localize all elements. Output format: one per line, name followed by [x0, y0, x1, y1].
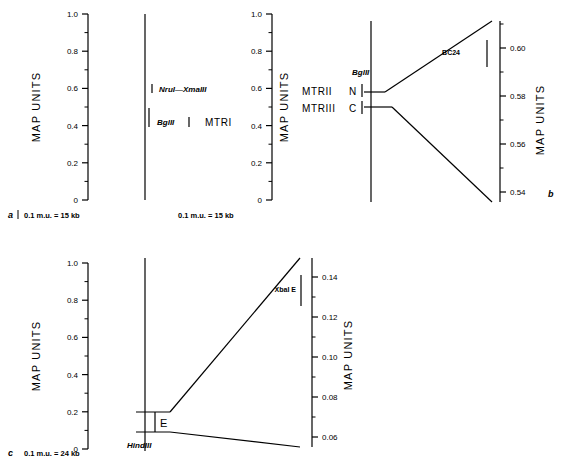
panel-b-terminus-n: N: [349, 86, 357, 97]
panel-a-left-tick-1: 1.0: [67, 10, 79, 19]
panel-c-tick-010: 0.10: [322, 353, 338, 362]
panel-a-right-tick-0: 0: [258, 196, 263, 205]
map-figure-svg: 1.0 0.8 0.6 0.4 0.2 0 MAP UNITS NruI—Xma…: [0, 0, 562, 470]
panel-a-right-tick-02: 0.2: [251, 159, 263, 168]
panel-b-expansion-line-upper: [385, 21, 492, 92]
panel-b-tick-060: 0.60: [510, 44, 526, 53]
panel-c-tick-014: 0.14: [322, 273, 338, 282]
panel-a-right-axis-title: MAP UNITS: [278, 72, 290, 143]
panel-a-left-tick-02: 0.2: [67, 159, 79, 168]
panel-b-expansion-line-lower: [392, 107, 492, 202]
panel-b-letter: b: [548, 189, 554, 199]
panel-c-left-tick-1: 1.0: [67, 259, 79, 268]
panel-a-left-tick-04: 0.4: [67, 122, 79, 131]
panel-c-expansion-line-upper: [170, 258, 300, 412]
panel-b-locus-label-mtriii: MTRIII: [302, 103, 336, 114]
panel-b-axis-title: MAP UNITS: [534, 85, 546, 156]
panel-a-scale-note: 0.1 m.u. = 15 kb: [24, 211, 80, 220]
panel-c-tick-006: 0.06: [322, 433, 338, 442]
panel-a-left-tick-08: 0.8: [67, 47, 79, 56]
panel-b-tick-054: 0.54: [510, 188, 526, 197]
panel-a-right-tick-08: 0.8: [251, 47, 263, 56]
panel-a-marker-label-bglii: BglII: [157, 118, 175, 127]
panel-a-left-tick-06: 0.6: [67, 84, 79, 93]
panel-c-left-tick-02: 0.2: [67, 408, 79, 417]
panel-c-left-tick-06: 0.6: [67, 333, 79, 342]
figure-container: 1.0 0.8 0.6 0.4 0.2 0 MAP UNITS NruI—Xma…: [0, 0, 562, 470]
panel-a-right-tick-04: 0.4: [251, 122, 263, 131]
panel-b-tick-058: 0.58: [510, 92, 526, 101]
panel-c-expanded-axis-major-ticks: [312, 277, 318, 437]
panel-c-tick-008: 0.08: [322, 393, 338, 402]
panel-c-marker-label-hindiii: HindIII: [127, 441, 152, 450]
panel-c-clone-label-xbai-e: XbaI E: [275, 286, 297, 293]
panel-a: 1.0 0.8 0.6 0.4 0.2 0 MAP UNITS NruI—Xma…: [8, 10, 290, 220]
panel-c: 1.0 0.8 0.6 0.4 0.2 0 MAP UNITS E HindII…: [8, 258, 354, 458]
panel-a-right-scale-note: 0.1 m.u. = 15 kb: [178, 211, 234, 220]
panel-a-left-axis-title: MAP UNITS: [30, 72, 42, 143]
panel-c-tick-012: 0.12: [322, 313, 338, 322]
panel-c-left-tick-08: 0.8: [67, 296, 79, 305]
panel-b-clone-label-bc24: BC24: [442, 49, 460, 56]
panel-a-marker-label-nrui-xmaiii: NruI—XmaIII: [159, 85, 207, 94]
panel-c-expanded-axis-title: MAP UNITS: [342, 320, 354, 391]
panel-b-locus-label-mtrii: MTRII: [302, 86, 332, 97]
panel-a-right-tick-1: 1.0: [251, 10, 263, 19]
panel-a-left-tick-0: 0: [74, 196, 79, 205]
panel-c-letter: c: [8, 448, 13, 458]
panel-b-marker-label-bglii: BglII: [352, 68, 370, 77]
panel-c-left-axis-title: MAP UNITS: [30, 321, 42, 392]
panel-c-scale-note: 0.1 m.u. = 24 kb: [24, 449, 80, 458]
panel-b: MTRII N MTRIII C BglII BC24 0: [302, 21, 554, 202]
panel-c-fragment-label-e: E: [160, 417, 167, 429]
panel-c-left-tick-04: 0.4: [67, 371, 79, 380]
panel-b-terminus-c: C: [349, 103, 357, 114]
panel-a-locus-label-mtri: MTRI: [205, 117, 232, 128]
panel-a-letter: a: [8, 210, 13, 220]
panel-b-tick-056: 0.56: [510, 140, 526, 149]
panel-c-expansion-line-lower: [170, 432, 300, 447]
panel-a-right-tick-06: 0.6: [251, 84, 263, 93]
